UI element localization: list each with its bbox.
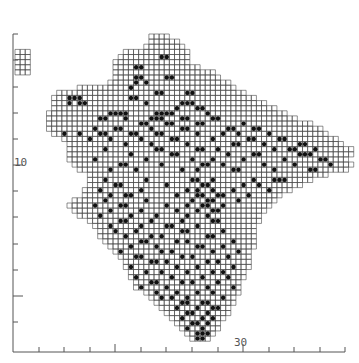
y-axis-label-10: 10 xyxy=(14,156,27,169)
x-axis-label-30: 30 xyxy=(234,336,247,349)
grid-squares xyxy=(15,34,354,341)
distribution-map xyxy=(0,0,359,363)
